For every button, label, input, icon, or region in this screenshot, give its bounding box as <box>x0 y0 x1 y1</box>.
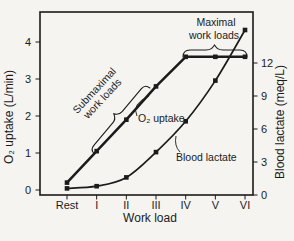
o2-uptake-curve-point <box>213 55 218 60</box>
left-tick-label: 3 <box>25 73 31 85</box>
left-tick-label: 4 <box>25 36 31 48</box>
right-tick-label: 9 <box>261 90 267 102</box>
left-axis-ticks: 43210 <box>25 36 40 196</box>
blood-lactate-curve-point <box>94 184 99 189</box>
right-axis-ticks: 129630 <box>253 57 273 201</box>
figure: 43210 129630 RestIIIIIIIVVVI O₂ uptake (… <box>0 0 294 241</box>
x-tick-label: I <box>95 199 98 211</box>
blood-lactate-leader <box>176 136 181 152</box>
x-tick-label: V <box>212 199 220 211</box>
right-tick-label: 3 <box>261 156 267 168</box>
annotation-o2-uptake: O₂ uptake <box>138 112 185 124</box>
blood-lactate-curve-point <box>213 78 218 83</box>
x-tick-label: IV <box>180 199 191 211</box>
blood-lactate-curve-point <box>65 186 70 191</box>
o2-uptake-curve-point <box>65 180 70 185</box>
blood-lactate-curve-point <box>124 175 129 180</box>
x-axis-label: Work load <box>123 211 177 225</box>
x-axis-ticks: RestIIIIIIIVVVI <box>56 195 251 211</box>
o2-uptake-curve-point <box>124 117 129 122</box>
x-tick-label: II <box>123 199 129 211</box>
chart: 43210 129630 RestIIIIIIIVVVI O₂ uptake (… <box>0 0 294 241</box>
left-tick-label: 1 <box>25 147 31 159</box>
annotation-maximal-line2: work loads <box>188 29 239 41</box>
x-tick-label: Rest <box>56 199 79 211</box>
annotation-maximal-line1: Maximal <box>196 16 235 28</box>
blood-lactate-curve-point <box>154 150 159 155</box>
o2-uptake-curve-point <box>94 149 99 154</box>
o2-uptake-curve-point <box>154 84 159 89</box>
left-tick-label: 0 <box>25 184 31 196</box>
right-tick-label: 6 <box>261 123 267 135</box>
right-tick-label: 12 <box>261 57 273 69</box>
right-tick-label: 0 <box>261 189 267 201</box>
blood-lactate-curve-point <box>243 28 248 33</box>
left-tick-label: 2 <box>25 110 31 122</box>
o2-uptake-curve-point <box>183 55 188 60</box>
right-axis-label: Blood lactate (meq/L) <box>273 65 287 179</box>
x-tick-label: VI <box>240 199 250 211</box>
left-axis-label: O₂ uptake (L/min) <box>2 70 16 164</box>
annotation-blood-lactate: Blood lactate <box>176 151 237 163</box>
x-tick-label: III <box>151 199 160 211</box>
